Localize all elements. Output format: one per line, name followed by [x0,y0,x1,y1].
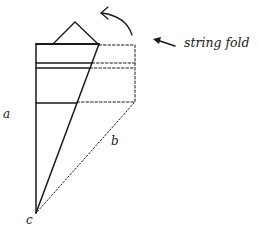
fold-arrow [102,13,132,35]
slant-edge [36,44,99,213]
string-fold-diagram: string fold a b c [0,0,258,235]
string-fold-label: string fold [184,37,250,50]
label-b: b [111,135,119,147]
label-c: c [26,214,33,226]
label-a: a [3,108,10,120]
dashed-diagonal-b [37,103,134,212]
top-triangle [53,22,98,44]
